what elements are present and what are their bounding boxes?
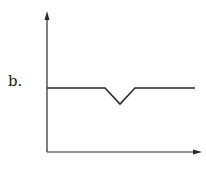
x-axis-arrow-icon — [193, 150, 202, 155]
figure-panel: b. — [0, 0, 206, 169]
y-axis-arrow-icon — [45, 11, 50, 20]
data-line — [47, 88, 195, 104]
line-graph — [0, 0, 206, 169]
